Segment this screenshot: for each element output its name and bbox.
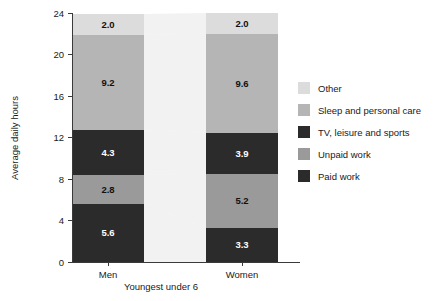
legend-label: Other: [318, 83, 342, 94]
legend-swatch[interactable]: [298, 104, 310, 116]
bar-value-label: 5.2: [235, 195, 248, 206]
y-tick-label: 8: [59, 174, 64, 185]
legend-swatch[interactable]: [298, 126, 310, 138]
connector-ribbon: [144, 13, 206, 35]
legend-label: TV, leisure and sports: [318, 127, 410, 138]
x-axis-ticks: [108, 262, 242, 266]
bar-value-label: 2.0: [235, 18, 248, 29]
bar-value-label: 3.3: [235, 239, 248, 250]
legend-swatch[interactable]: [298, 148, 310, 160]
legend-swatch[interactable]: [298, 170, 310, 182]
bar-value-label: 4.3: [101, 147, 114, 158]
legend-label: Unpaid work: [318, 149, 371, 160]
stacked-bar-chart: 5.62.84.39.22.03.35.23.99.62.0 048121620…: [0, 0, 443, 301]
category-label-women: Women: [226, 269, 259, 280]
y-tick-label: 12: [53, 132, 64, 143]
legend-swatch[interactable]: [298, 82, 310, 94]
y-tick-label: 20: [53, 49, 64, 60]
connector-ribbons: [144, 13, 206, 262]
bar-value-label: 2.0: [101, 19, 114, 30]
legend-label: Paid work: [318, 171, 360, 182]
category-labels: MenWomen: [99, 269, 259, 280]
bar-value-label: 9.6: [235, 78, 248, 89]
bar-value-label: 5.6: [101, 227, 114, 238]
y-tick-label: 24: [53, 8, 64, 19]
bar-value-label: 9.2: [101, 77, 114, 88]
y-tick-label: 4: [59, 215, 64, 226]
connector-ribbon: [144, 34, 206, 134]
y-axis-title: Average daily hours: [9, 96, 20, 180]
chart-root: 5.62.84.39.22.03.35.23.99.62.0 048121620…: [0, 0, 443, 301]
legend-label: Sleep and personal care: [318, 105, 421, 116]
y-tick-label: 16: [53, 91, 64, 102]
legend: OtherSleep and personal careTV, leisure …: [298, 82, 421, 182]
x-axis-caption: Youngest under 6: [124, 281, 198, 292]
bar-value-label: 3.9: [235, 148, 248, 159]
category-label-men: Men: [99, 269, 117, 280]
y-axis-ticks: 04812162024: [53, 8, 72, 268]
bar-value-label: 2.8: [101, 184, 114, 195]
y-tick-label: 0: [59, 257, 64, 268]
connector-ribbon: [144, 130, 206, 175]
